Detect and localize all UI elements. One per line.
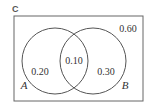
- venn-diagram: C 0.60 0.10 0.20 0.30 A B: [0, 0, 149, 108]
- intersection-value: 0.10: [65, 55, 83, 66]
- a-only-value: 0.20: [31, 66, 49, 77]
- b-only-value: 0.30: [97, 66, 115, 77]
- set-b-label: B: [122, 79, 129, 91]
- outside-value: 0.60: [119, 23, 137, 34]
- set-a-label: A: [20, 79, 28, 91]
- universe-label: C: [12, 4, 19, 14]
